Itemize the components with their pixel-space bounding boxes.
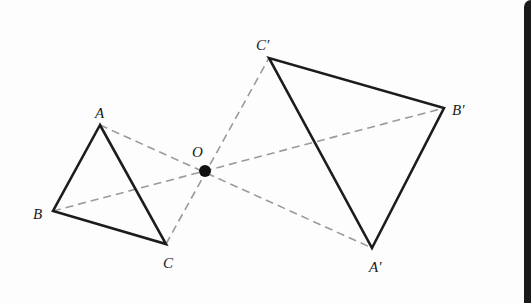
label-c: C [163,255,174,271]
page-edge-border [524,0,531,303]
label-a-prime: A′ [368,259,382,275]
center-point-o [199,165,211,177]
dashed-line-b-to-b-prime [53,108,444,211]
vertex-labels: ABCA′B′C′O [33,37,465,275]
dashed-line-a-to-a-prime [100,125,372,248]
label-c-prime: C′ [256,37,270,53]
diagram-canvas: ABCA′B′C′O [0,0,531,303]
label-b-prime: B′ [452,102,465,118]
label-b: B [33,206,42,222]
triangle-a-prime-b-prime-c-prime [269,58,444,248]
label-a: A [94,105,105,121]
transformation-diagram: ABCA′B′C′O [0,0,531,303]
dashed-line-c-to-c-prime [166,58,269,244]
label-o: O [192,144,203,160]
triangle-abc [53,125,166,244]
